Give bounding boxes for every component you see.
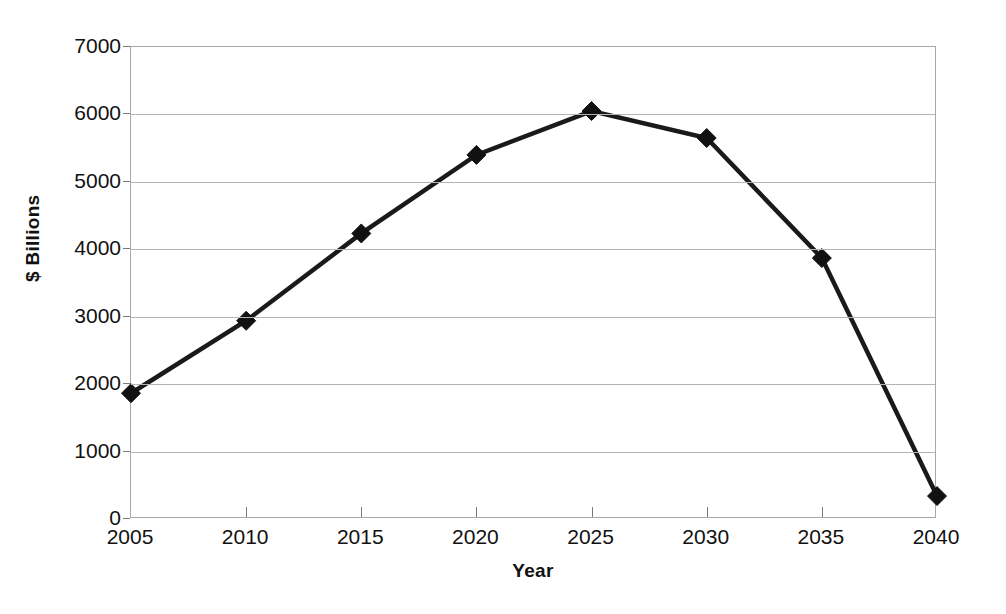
y-tick-mark-1000: [123, 451, 130, 452]
data-point-marker-2040: [928, 487, 947, 506]
series-line: [131, 111, 937, 496]
gridline-y-4000: [131, 249, 935, 250]
y-tick-mark-7000: [123, 46, 130, 47]
x-tick-label-2005: 2005: [70, 524, 190, 549]
plot-area: [130, 46, 936, 518]
y-tick-label-text: 7000: [74, 35, 130, 56]
data-point-marker-2025: [582, 102, 601, 121]
y-tick-label-text: 4000: [74, 237, 130, 258]
y-tick-mark-5000: [123, 181, 130, 182]
y-tick-mark-4000: [123, 248, 130, 249]
y-tick-mark-3000: [123, 316, 130, 317]
x-tick-mark-2015: [361, 507, 362, 517]
x-tick-label-2015: 2015: [300, 524, 420, 549]
x-tick-mark-2035: [822, 507, 823, 517]
x-tick-mark-2030: [707, 507, 708, 517]
series-markers: [122, 102, 947, 506]
y-tick-label-text: 6000: [74, 102, 130, 123]
x-tick-label-2035: 2035: [761, 524, 881, 549]
x-tick-mark-2025: [592, 507, 593, 517]
y-axis-title: $ Billions: [22, 195, 44, 282]
x-tick-label-2020: 2020: [415, 524, 535, 549]
x-tick-label-2030: 2030: [646, 524, 766, 549]
y-tick-label-text: 3000: [74, 305, 130, 326]
series-line-group: [131, 47, 937, 519]
x-tick-label-2010: 2010: [185, 524, 305, 549]
gridline-y-1000: [131, 452, 935, 453]
x-tick-mark-2010: [246, 507, 247, 517]
y-tick-label-text: 5000: [74, 170, 130, 191]
x-tick-label-2025: 2025: [531, 524, 651, 549]
gridline-y-3000: [131, 317, 935, 318]
y-tick-mark-6000: [123, 113, 130, 114]
x-tick-mark-2020: [476, 507, 477, 517]
gridline-y-2000: [131, 384, 935, 385]
y-tick-label-text: 2000: [74, 372, 130, 393]
y-tick-mark-2000: [123, 383, 130, 384]
y-tick-mark-0: [123, 518, 130, 519]
y-tick-label-text: 1000: [74, 440, 130, 461]
x-axis-title: Year: [130, 560, 936, 582]
gridline-y-6000: [131, 114, 935, 115]
gridline-y-5000: [131, 182, 935, 183]
x-tick-label-2040: 2040: [876, 524, 996, 549]
line-chart: $ Billions 70006000500040003000200010000…: [0, 0, 1006, 614]
